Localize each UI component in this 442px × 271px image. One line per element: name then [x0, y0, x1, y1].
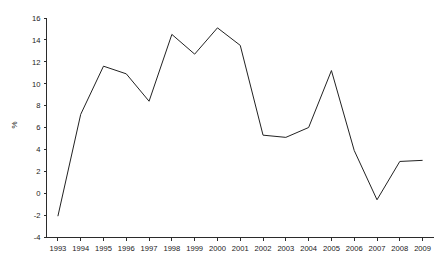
x-tick-label: 1993 — [49, 244, 66, 253]
y-tick-label: 6 — [36, 123, 40, 132]
x-tick-label: 1996 — [118, 244, 135, 253]
y-tick-label: 14 — [32, 36, 40, 45]
x-tick-label: 1995 — [95, 244, 112, 253]
x-tick-label: 2000 — [209, 244, 226, 253]
x-tick-label: 1994 — [72, 244, 89, 253]
x-tick-label: 2007 — [369, 244, 386, 253]
line-chart: -4-20246810121416 % 19931994199519961997… — [0, 0, 442, 271]
y-tick-label: 16 — [32, 14, 40, 23]
x-tick-label: 1997 — [141, 244, 158, 253]
series-group — [58, 28, 423, 216]
y-tick-label: 12 — [32, 58, 40, 67]
x-tick-label: 2001 — [232, 244, 249, 253]
y-axis-title: % — [10, 121, 19, 128]
x-tick-label: 2005 — [323, 244, 340, 253]
chart-canvas: -4-20246810121416 % 19931994199519961997… — [0, 0, 442, 271]
y-tick-label: 10 — [32, 80, 40, 89]
x-tick-label: 2008 — [391, 244, 408, 253]
x-tick-label: 1999 — [186, 244, 203, 253]
x-tick-label: 2009 — [414, 244, 431, 253]
y-tick-label: 4 — [36, 145, 40, 154]
x-tick-label: 2006 — [346, 244, 363, 253]
x-tick-label: 2004 — [300, 244, 317, 253]
x-tick-label: 1998 — [163, 244, 180, 253]
x-axis-group: 1993199419951996199719981999200020012002… — [47, 237, 435, 253]
x-tick-label: 2002 — [255, 244, 272, 253]
data-series-line — [58, 28, 423, 216]
x-tick-label: 2003 — [277, 244, 294, 253]
y-tick-label: 2 — [36, 167, 40, 176]
y-axis-group: -4-20246810121416 % — [10, 14, 47, 242]
y-tick-label: 0 — [36, 189, 40, 198]
x-tick-labels: 1993199419951996199719981999200020012002… — [49, 244, 431, 253]
y-tick-label: 8 — [36, 101, 40, 110]
y-tick-label: -4 — [34, 233, 41, 242]
y-tick-label: -2 — [34, 211, 41, 220]
y-tick-labels: -4-20246810121416 — [32, 14, 40, 242]
